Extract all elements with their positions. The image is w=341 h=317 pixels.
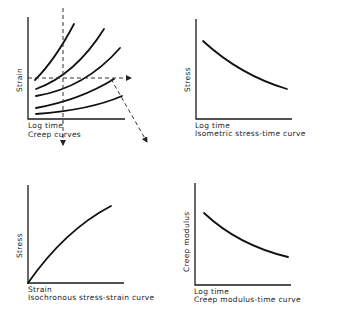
p4-axes [195, 183, 291, 285]
panel-isometric: Log time Isometric stress-time curve Str… [183, 19, 306, 138]
p1-axes [28, 17, 125, 119]
p1-xlabel: Log time [28, 121, 63, 130]
p3-curve [28, 206, 111, 283]
p1-ylabel: Strain [15, 68, 24, 92]
panel-isochronous: Strain Isochronous stress-strain curve S… [15, 185, 155, 302]
panel-creep-curves: Log time Creep curves Strain [15, 8, 147, 145]
p2-curve [203, 41, 287, 89]
p4-title: Creep modulus-time curve [194, 295, 301, 304]
panel-creep-modulus: Log time Creep modulus-time curve Creep … [182, 183, 301, 304]
creep-diagram: Log time Creep curves Strain Log time Is… [0, 0, 341, 317]
p1-curve-3 [36, 48, 120, 96]
p4-curve [204, 213, 288, 257]
p1-title: Creep curves [28, 130, 81, 139]
p4-ylabel: Creep modulus [182, 211, 191, 272]
p3-title: Isochronous stress-strain curve [28, 293, 155, 302]
p3-axes [28, 185, 124, 283]
p2-ylabel: Stress [183, 67, 192, 92]
p1-diagonal-dashed-arrow [111, 79, 147, 142]
p3-ylabel: Stress [15, 233, 24, 258]
p1-curve-2 [36, 29, 104, 89]
p2-title: Isometric stress-time curve [195, 129, 306, 138]
p2-axes [196, 19, 292, 119]
